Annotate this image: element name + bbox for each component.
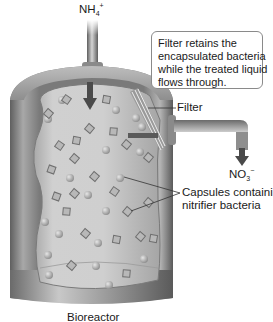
outflow-arrow [235, 148, 249, 166]
outlet-superscript: − [250, 167, 254, 174]
callout-line: Filter retains the [158, 37, 258, 50]
outlet-species: NO [229, 168, 246, 180]
inlet-pipe [82, 20, 103, 70]
callout-line: while the treated liquid [158, 63, 258, 76]
bioreactor-diagram: NH4+ Filter retains the encapsulated bac… [0, 0, 273, 322]
filter-callout: Filter retains the encapsulated bacteria… [151, 31, 263, 89]
inlet-label: NH4+ [79, 3, 104, 16]
callout-line: flows through. [158, 76, 258, 89]
outlet-subscript: 3 [246, 175, 250, 182]
inlet-superscript: + [100, 2, 104, 9]
capsules-label: Capsules containing nitrifier bacteria [182, 186, 273, 212]
capsules-label-line2: nitrifier bacteria [182, 199, 273, 212]
capsules-label-line1: Capsules containing [182, 186, 273, 199]
inlet-species: NH [79, 3, 96, 15]
outlet-label: NO3− [229, 168, 254, 181]
callout-line: encapsulated bacteria [158, 50, 258, 63]
inlet-subscript: 4 [96, 10, 100, 17]
filter-label: Filter [177, 101, 203, 114]
diagram-caption: Bioreactor [67, 311, 119, 322]
